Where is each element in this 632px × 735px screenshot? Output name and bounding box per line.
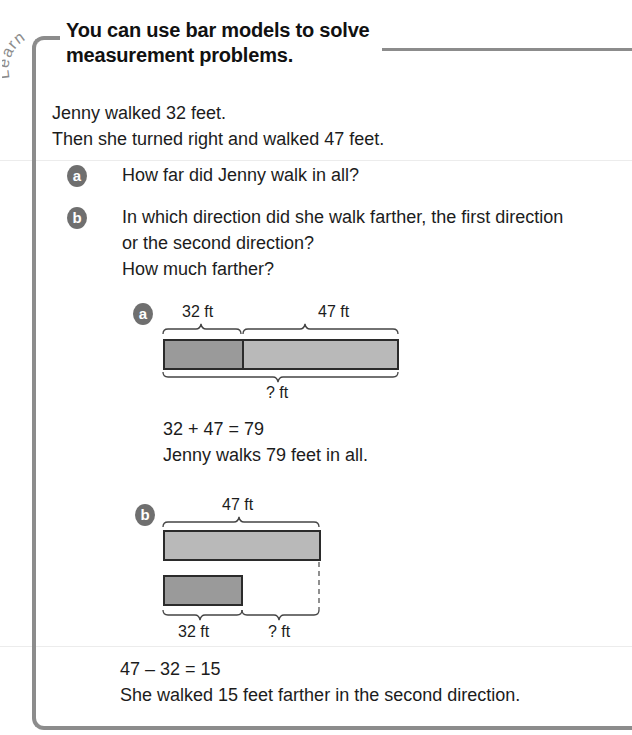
model-a-segment2-label: 47 ft bbox=[318, 303, 349, 321]
model-b-dashed-guide bbox=[316, 560, 326, 612]
question-a-text: How far did Jenny walk in all? bbox=[122, 162, 359, 188]
model-b-short-label: 32 ft bbox=[178, 623, 209, 641]
frame-top-rule bbox=[382, 48, 632, 51]
model-a-bottom-brace bbox=[160, 370, 402, 384]
question-b-line-3: How much farther? bbox=[122, 256, 563, 282]
heading-line-1: You can use bar models to solve bbox=[66, 18, 370, 43]
model-b-long-label: 47 ft bbox=[222, 496, 253, 514]
problem-line-1: Jenny walked 32 feet. bbox=[52, 100, 384, 126]
question-b-badge: b bbox=[67, 207, 87, 229]
model-a-top-braces bbox=[160, 322, 402, 336]
model-b-solution: 47 – 32 = 15 She walked 15 feet farther … bbox=[120, 656, 520, 708]
svg-text:Learn: Learn bbox=[2, 28, 28, 80]
model-b-top-brace bbox=[160, 515, 324, 529]
question-b-text: In which direction did she walk farther,… bbox=[122, 204, 563, 282]
model-a-badge: a bbox=[133, 303, 153, 325]
model-a-bar-32 bbox=[163, 339, 244, 370]
learn-tag: Learn bbox=[2, 28, 62, 88]
model-a-answer: Jenny walks 79 feet in all. bbox=[163, 442, 368, 468]
model-a-equation: 32 + 47 = 79 bbox=[163, 416, 368, 442]
model-b-difference-label: ? ft bbox=[268, 623, 290, 641]
model-a-bar-47 bbox=[242, 339, 399, 370]
frame-bottom-border bbox=[32, 706, 632, 730]
scan-artifact-line bbox=[0, 160, 632, 161]
question-b-line-1: In which direction did she walk farther,… bbox=[122, 204, 563, 230]
model-a-segment1-label: 32 ft bbox=[182, 303, 213, 321]
problem-statement: Jenny walked 32 feet. Then she turned ri… bbox=[52, 100, 384, 152]
scan-artifact-line bbox=[0, 646, 632, 647]
problem-line-2: Then she turned right and walked 47 feet… bbox=[52, 126, 384, 152]
heading-line-2: measurement problems. bbox=[66, 43, 370, 68]
frame-left-border bbox=[32, 58, 36, 713]
question-b-line-2: or the second direction? bbox=[122, 230, 563, 256]
model-a-total-label: ? ft bbox=[266, 384, 288, 402]
model-a-solution: 32 + 47 = 79 Jenny walks 79 feet in all. bbox=[163, 416, 368, 468]
lesson-heading: You can use bar models to solve measurem… bbox=[66, 18, 370, 68]
question-a-badge: a bbox=[67, 165, 87, 187]
model-b-bar-47 bbox=[163, 530, 321, 561]
model-b-bar-32 bbox=[163, 575, 243, 606]
model-b-equation: 47 – 32 = 15 bbox=[120, 656, 520, 682]
model-b-badge: b bbox=[135, 504, 155, 526]
model-b-bottom-braces bbox=[160, 608, 324, 622]
model-b-answer: She walked 15 feet farther in the second… bbox=[120, 682, 520, 708]
